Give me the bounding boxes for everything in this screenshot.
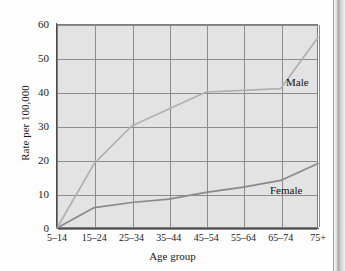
x-tick-label: 55–64	[231, 232, 256, 243]
series-line-male	[57, 38, 318, 228]
series-label-male: Male	[286, 76, 309, 88]
series-container	[57, 24, 318, 228]
page-edge-line	[333, 0, 334, 271]
y-tick-label: 60	[19, 19, 49, 30]
series-label-female: Female	[270, 184, 302, 196]
x-tick-label: 35–44	[156, 232, 181, 243]
page-edge-shadow	[329, 0, 345, 271]
y-axis-title: Rate per 100,000	[19, 48, 31, 198]
x-axis-title: Age group	[0, 250, 345, 262]
x-tick-label: 65–74	[268, 232, 293, 243]
x-tick-label: 15–24	[82, 232, 107, 243]
y-tick-label: 0	[19, 223, 49, 234]
gridline-vertical	[319, 25, 320, 227]
x-tick-label: 45–54	[194, 232, 219, 243]
x-tick-label: 25–34	[119, 232, 144, 243]
chart-figure: 0102030405060 5–1415–2425–3435–4445–5455…	[0, 0, 345, 271]
x-tick-label: 5–14	[47, 232, 67, 243]
x-axis-line	[56, 228, 319, 229]
gridline-horizontal	[58, 229, 317, 230]
x-tick-label: 75+	[310, 232, 326, 243]
